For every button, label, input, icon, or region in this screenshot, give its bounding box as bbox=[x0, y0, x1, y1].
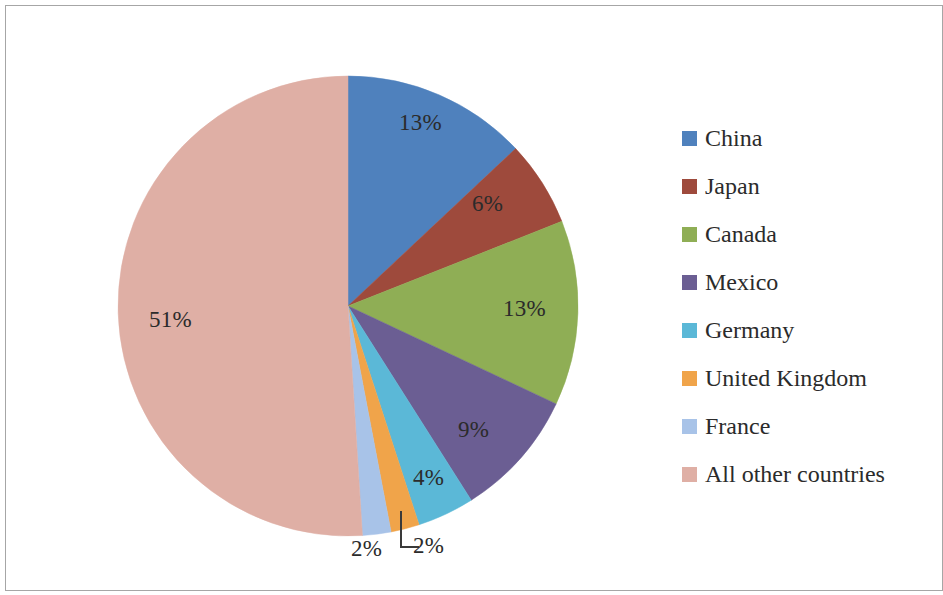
legend-item-all-other-countries[interactable]: All other countries bbox=[682, 450, 932, 498]
legend-item-china[interactable]: China bbox=[682, 114, 932, 162]
slice-percent-label-france: 2% bbox=[351, 536, 382, 562]
legend-swatch-japan bbox=[682, 179, 697, 194]
legend-label-china: China bbox=[705, 126, 762, 150]
legend-item-japan[interactable]: Japan bbox=[682, 162, 932, 210]
legend-label-mexico: Mexico bbox=[705, 270, 778, 294]
legend-item-mexico[interactable]: Mexico bbox=[682, 258, 932, 306]
slice-percent-label-china: 13% bbox=[399, 110, 442, 136]
slice-percent-label-japan: 6% bbox=[472, 191, 503, 217]
legend-label-united-kingdom: United Kingdom bbox=[705, 366, 867, 390]
slice-percent-label-germany: 4% bbox=[413, 465, 444, 491]
legend-swatch-all-other-countries bbox=[682, 467, 697, 482]
legend-label-all-other-countries: All other countries bbox=[705, 462, 885, 486]
legend-item-canada[interactable]: Canada bbox=[682, 210, 932, 258]
legend-swatch-united-kingdom bbox=[682, 371, 697, 386]
slice-percent-label-united-kingdom: 2% bbox=[413, 533, 444, 559]
legend-label-canada: Canada bbox=[705, 222, 777, 246]
legend-label-germany: Germany bbox=[705, 318, 794, 342]
legend-swatch-mexico bbox=[682, 275, 697, 290]
legend-label-japan: Japan bbox=[705, 174, 760, 198]
chart-legend: ChinaJapanCanadaMexicoGermanyUnited King… bbox=[682, 114, 932, 498]
slice-percent-label-all-other-countries: 51% bbox=[149, 307, 192, 333]
legend-swatch-canada bbox=[682, 227, 697, 242]
legend-swatch-france bbox=[682, 419, 697, 434]
slice-percent-label-canada: 13% bbox=[503, 296, 546, 322]
legend-swatch-germany bbox=[682, 323, 697, 338]
legend-item-united-kingdom[interactable]: United Kingdom bbox=[682, 354, 932, 402]
chart-frame: 13%6%13%9%4%2%2%51% ChinaJapanCanadaMexi… bbox=[5, 5, 943, 591]
pie-chart-plot-area: 13%6%13%9%4%2%2%51% ChinaJapanCanadaMexi… bbox=[6, 6, 942, 595]
legend-item-france[interactable]: France bbox=[682, 402, 932, 450]
legend-label-france: France bbox=[705, 414, 770, 438]
legend-swatch-china bbox=[682, 131, 697, 146]
legend-item-germany[interactable]: Germany bbox=[682, 306, 932, 354]
slice-percent-label-mexico: 9% bbox=[458, 417, 489, 443]
pie-slice-all-other-countries[interactable] bbox=[118, 76, 362, 536]
